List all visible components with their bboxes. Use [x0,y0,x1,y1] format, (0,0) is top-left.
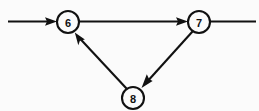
directed-graph-diagram: 6 7 8 [0,0,259,111]
edge-incoming-to-6 [8,17,57,26]
node-7-label: 7 [196,17,202,29]
edge-8-to-6 [75,33,127,89]
node-6-label: 6 [65,17,71,29]
node-7[interactable]: 7 [188,11,210,33]
edge-8-to-6-line [79,37,127,89]
graph-canvas: 6 7 8 [0,0,259,111]
node-6[interactable]: 6 [57,11,79,33]
node-8-label: 8 [130,93,136,105]
node-8[interactable]: 8 [122,87,144,109]
edge-6-to-7 [79,17,188,26]
edge-7-to-8-line [146,32,193,84]
edge-7-to-8 [142,32,193,89]
